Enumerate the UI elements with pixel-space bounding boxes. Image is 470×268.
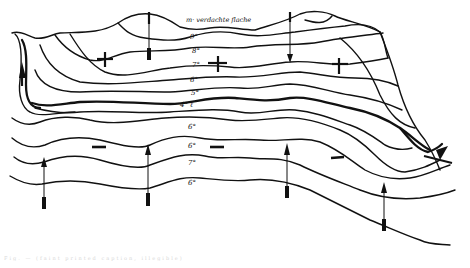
isotherm-label-6: 6°	[190, 77, 198, 84]
contour-drawing	[0, 0, 470, 268]
isotherm-label-7: 7°	[192, 62, 200, 69]
isotherm-label-6-lower: 6°	[188, 124, 196, 131]
arrow-down-icon	[147, 12, 151, 60]
isotherm-label-7-lower: 7°	[188, 160, 196, 167]
arrow-up-icon	[145, 144, 151, 206]
isotherm-diagram: m· verdachte flache 9° 8° 7° 6° 5° 4° ℓ …	[0, 0, 470, 268]
isotherm-label-4: 4° ℓ	[180, 102, 193, 109]
isotherm-label-5: 5°	[191, 90, 199, 97]
plus-mark-3	[332, 58, 348, 74]
plus-mark-2	[208, 56, 227, 72]
minus-mark-3	[331, 157, 344, 158]
plus-mark-1	[97, 52, 113, 67]
arrow-up-icon	[381, 182, 387, 231]
isotherm-label-6-bottom: 6°	[188, 180, 196, 187]
surface-label: m· verdachte flache	[186, 17, 251, 24]
surface-outline	[12, 12, 440, 170]
figure-caption: Fig. — (faint printed caption, illegible…	[4, 255, 444, 261]
isotherm-label-8: 8°	[192, 48, 200, 55]
arrow-up-icon	[284, 143, 290, 198]
isotherm-label-9: 9°	[190, 34, 198, 41]
isotherm-label-6-lower-2: 6°	[188, 143, 196, 150]
